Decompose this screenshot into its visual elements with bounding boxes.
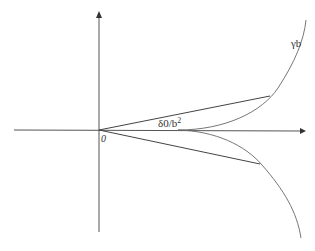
y-axis-arrow-icon [96,11,102,18]
origin-label: 0 [101,134,106,144]
x-axis-arrow-icon [300,128,306,134]
curve-label-gamma-b: γb [291,38,301,49]
gamma-b-curve-upper [178,20,306,130]
lower-chord [99,130,260,164]
vertex-label-delta: δ0/b2 [158,117,181,129]
gamma-b-curve-lower [178,130,301,238]
vertex-label-exponent: 2 [177,116,181,125]
vertex-label-base: δ0/b [158,117,177,129]
upper-chord [99,96,270,130]
y-axis [96,11,102,232]
